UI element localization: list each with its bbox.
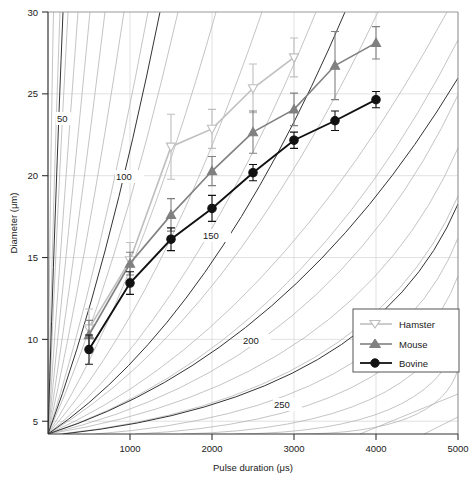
x-tick-label-4000: 4000 <box>365 443 386 454</box>
y-tick-label-25: 25 <box>27 88 38 99</box>
y-tick-label-15: 15 <box>27 252 38 263</box>
contour-label-100: 100 <box>116 171 132 182</box>
contour-label-200: 200 <box>243 335 259 346</box>
data-point-marker <box>208 204 216 212</box>
data-point-marker <box>85 345 93 353</box>
x-tick-label-5000: 5000 <box>447 443 468 454</box>
data-point-marker <box>331 117 339 125</box>
y-tick-label-5: 5 <box>33 416 38 427</box>
y-tick-label-30: 30 <box>27 7 38 18</box>
filled-circle-icon <box>371 359 379 367</box>
legend-label-hamster: Hamster <box>399 319 435 330</box>
x-tick-label-3000: 3000 <box>283 443 304 454</box>
x-tick-label-1000: 1000 <box>119 443 140 454</box>
y-tick-label-10: 10 <box>27 334 38 345</box>
chart-figure: 50 100 150 200 250 30 25 20 15 10 5 <box>0 0 472 478</box>
data-point-marker <box>126 279 134 287</box>
data-point-marker <box>167 235 175 243</box>
legend-label-bovine: Bovine <box>399 358 428 369</box>
data-point-marker <box>372 95 380 103</box>
contour-label-150: 150 <box>203 230 219 241</box>
data-point-marker <box>249 168 257 176</box>
contour-label-250: 250 <box>274 399 290 410</box>
y-axis-title: Diameter (μm) <box>8 193 19 254</box>
x-axis-title: Pulse duration (μs) <box>213 462 293 473</box>
legend-label-mouse: Mouse <box>399 339 428 350</box>
x-tick-label-2000: 2000 <box>201 443 222 454</box>
data-point-marker <box>290 136 298 144</box>
contour-label-50: 50 <box>57 113 68 124</box>
legend: Hamster Mouse Bovine <box>353 309 459 372</box>
y-tick-label-20: 20 <box>27 170 38 181</box>
